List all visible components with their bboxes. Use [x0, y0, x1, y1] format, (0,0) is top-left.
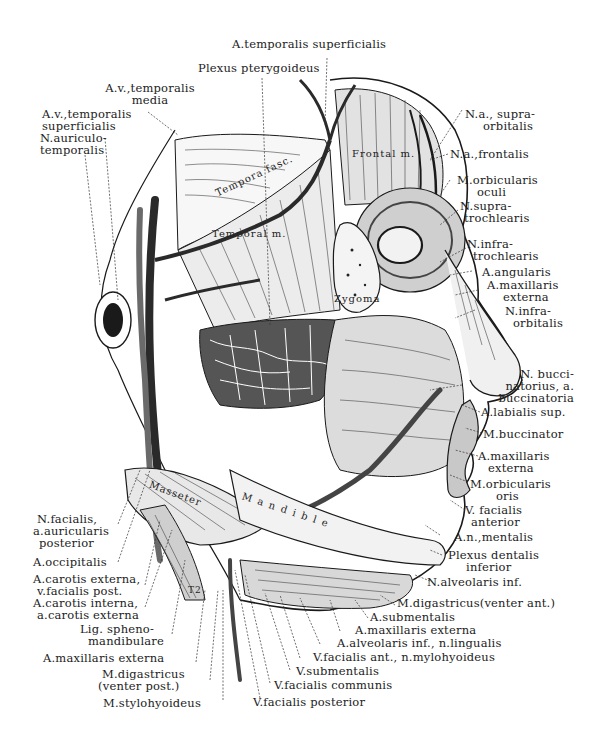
label-na-supraorbitalis: N.a., supra-orbitalis: [465, 108, 535, 132]
label-n-auriculotemporalis: N.auriculo-temporalis: [40, 132, 107, 156]
label-a-alveolaris-inf-n-lingualis: A.alveolaris inf., n.lingualis: [337, 637, 502, 649]
label-n-alveolaris-inf: N.alveolaris inf.: [427, 576, 522, 588]
label-a-maxillaris-externa-bottom: A.maxillaris externa: [355, 624, 476, 636]
label-m-orbicularis-oculi: M.orbicularisoculi: [457, 174, 538, 198]
label-a-labialis-sup: A.labialis sup.: [481, 406, 566, 418]
label-a-maxillaris-externa-upper: A.maxillarisexterna: [487, 279, 559, 303]
label-n-infratrochlearis: N.infra-trochlearis: [467, 238, 539, 262]
label-an-mentalis: A.n.,mentalis: [454, 531, 533, 543]
submandibular-region: [240, 560, 413, 608]
label-m-orbicularis-oris: M.orbicularisoris: [470, 478, 551, 502]
label-m-digastricus-venter-ant: M.digastricus(venter ant.): [397, 597, 555, 609]
label-m-digastricus-venter-post: M.digastricus(venter post.): [98, 668, 185, 692]
label-temporal-muscle: Temporal m.: [212, 228, 287, 239]
label-na-frontalis: N.a.,frontalis: [450, 148, 529, 160]
ear-canal: [95, 292, 131, 348]
label-a-carotis-interna-a-carotis-externa: A.carotis interna,a.carotis externa: [33, 597, 139, 621]
label-n-supratrochlearis: N.supra-trochlearis: [460, 200, 530, 224]
label-n-buccinatorius: N. bucci-natorius, a.buccinatoria: [470, 368, 574, 404]
label-a-occipitalis: A.occipitalis: [33, 556, 107, 568]
label-av-temporalis-superficialis: A.v.,temporalissuperficialis: [42, 108, 132, 132]
buccal-region: [324, 316, 463, 477]
mandible: [230, 470, 445, 565]
label-v-facialis-posterior: V.facialis posterior: [253, 696, 365, 708]
label-av-temporalis-media: A.v.,temporalismedia: [90, 82, 210, 106]
label-m-stylohyoideus: M.stylohyoideus: [103, 697, 201, 709]
label-n-infraorbitalis: N.infra-orbitalis: [505, 305, 563, 329]
pterygoid-plexus: [200, 319, 340, 408]
label-frontal-muscle: Frontal m.: [352, 148, 415, 159]
label-lig-sphenomandibulare: Lig. spheno-mandibulare: [80, 623, 164, 647]
label-a-carotis-externa-v-facialis-post: A.carotis externa,v.facialis post.: [33, 573, 140, 597]
label-v-facialis-anterior: V. facialisanterior: [465, 504, 522, 528]
label-a-temporalis-superficialis: A.temporalis superficialis: [232, 38, 386, 50]
label-marker: T2: [188, 585, 202, 595]
label-plexus-dentalis-inferior: Plexus dentalisinferior: [448, 549, 539, 573]
label-a-maxillaris-externa-mid: A.maxillarisexterna: [478, 450, 550, 474]
label-a-maxillaris-externa-left: A.maxillaris externa: [43, 652, 164, 664]
label-a-submentalis: A.submentalis: [370, 611, 455, 623]
label-a-angularis: A.angularis: [482, 266, 551, 278]
label-v-facialis-ant-n-mylohyoideus: V.facialis ant., n.mylohyoideus: [313, 651, 495, 663]
label-plexus-pterygoideus: Plexus pterygoideus: [198, 62, 320, 74]
label-zygoma: Zygoma: [334, 293, 380, 304]
label-v-submentalis: V.submentalis: [296, 665, 379, 677]
label-n-facialis-a-auricularis-posterior: N.facialis,a.auricularisposterior: [33, 513, 109, 549]
label-v-facialis-communis: V.facialis communis: [274, 679, 392, 691]
label-m-buccinator: M.buccinator: [483, 428, 563, 440]
